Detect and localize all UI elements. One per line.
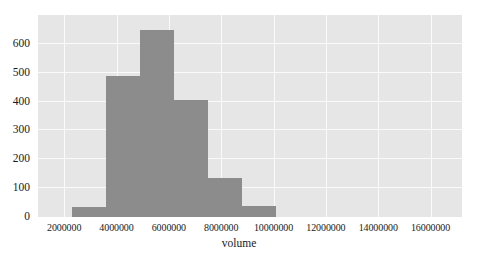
x-tick-label: 8000000 bbox=[181, 223, 261, 233]
x-tick-label: 14000000 bbox=[338, 223, 418, 233]
y-gridline bbox=[38, 72, 462, 73]
x-tick-label: 16000000 bbox=[391, 223, 471, 233]
y-tick-label: 100 bbox=[0, 182, 30, 194]
y-gridline bbox=[38, 158, 462, 159]
y-tick-label: 300 bbox=[0, 124, 30, 136]
histogram-bar bbox=[106, 76, 140, 217]
x-tick-label: 2000000 bbox=[24, 223, 104, 233]
histogram-figure: 2000000400000060000008000000100000001200… bbox=[0, 0, 478, 257]
y-tick-label: 600 bbox=[0, 38, 30, 50]
histogram-bar bbox=[174, 100, 208, 217]
y-tick-label: 0 bbox=[0, 211, 30, 223]
y-tick-label: 400 bbox=[0, 96, 30, 108]
y-gridline bbox=[38, 43, 462, 44]
x-tick-label: 4000000 bbox=[77, 223, 157, 233]
histogram-bar bbox=[140, 30, 174, 217]
y-gridline bbox=[38, 187, 462, 188]
y-tick-label: 500 bbox=[0, 67, 30, 79]
x-tick-label: 12000000 bbox=[286, 223, 366, 233]
histogram-bar bbox=[242, 206, 276, 217]
histogram-bar bbox=[72, 207, 106, 217]
y-gridline bbox=[38, 129, 462, 130]
x-axis-title: volume bbox=[0, 237, 478, 249]
x-tick-label: 10000000 bbox=[234, 223, 314, 233]
plot-area bbox=[38, 15, 462, 217]
y-gridline bbox=[38, 101, 462, 102]
x-tick-label: 6000000 bbox=[129, 223, 209, 233]
histogram-bar bbox=[208, 178, 242, 217]
y-tick-label: 200 bbox=[0, 153, 30, 165]
page-top-text-fragments bbox=[0, 0, 478, 11]
